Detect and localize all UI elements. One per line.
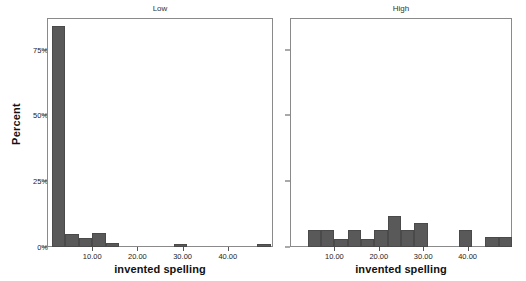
x-tick-mark: [137, 247, 138, 251]
high-panel: High: [290, 18, 512, 247]
x-tick-mark: [334, 247, 335, 251]
high-x-axis-label: invented spelling: [290, 263, 512, 275]
x-tick-label: 20.00: [128, 252, 147, 261]
x-tick-label: 40.00: [218, 252, 237, 261]
y-tick-mark: [285, 181, 290, 182]
histogram-bar: [388, 216, 401, 247]
histogram-bar: [374, 230, 387, 247]
x-tick-label: 10.00: [83, 252, 102, 261]
x-tick-label: 20.00: [369, 252, 388, 261]
y-tick-mark: [42, 181, 47, 182]
x-tick-mark: [183, 247, 184, 251]
y-tick-mark: [285, 247, 290, 248]
y-tick-mark: [285, 115, 290, 116]
histogram-bar: [485, 237, 498, 247]
histogram-bar: [52, 26, 66, 247]
histogram-bar: [459, 230, 472, 247]
histogram-bar: [308, 230, 321, 247]
low-panel-title: Low: [47, 4, 273, 13]
histogram-bar: [348, 230, 361, 247]
histogram-bar: [361, 239, 374, 247]
low-panel-plot-area: [47, 18, 273, 247]
histogram-bar: [321, 230, 334, 247]
x-tick-label: 30.00: [173, 252, 192, 261]
x-tick-mark: [379, 247, 380, 251]
x-tick-label: 30.00: [414, 252, 433, 261]
x-tick-label: 10.00: [325, 252, 344, 261]
histogram-bar: [92, 233, 106, 247]
histogram-bar: [401, 230, 414, 247]
high-panel-plot-area: [290, 18, 512, 247]
y-tick-mark: [42, 115, 47, 116]
y-axis-ticks: 0%25%50%75%: [22, 0, 48, 281]
x-tick-mark: [92, 247, 93, 251]
x-tick-label: 40.00: [458, 252, 477, 261]
x-tick-mark: [423, 247, 424, 251]
x-tick-mark: [468, 247, 469, 251]
y-tick-mark: [42, 247, 47, 248]
histogram-bar: [79, 238, 93, 247]
chart-root: Percent 0%25%50%75% Low invented spellin…: [0, 0, 526, 281]
histogram-bar: [334, 239, 347, 247]
x-tick-mark: [228, 247, 229, 251]
low-panel: Low: [47, 18, 273, 247]
high-panel-x-axis: invented spelling 10.0020.0030.0040.00: [290, 247, 512, 281]
low-panel-x-axis: invented spelling 10.0020.0030.0040.00: [47, 247, 273, 281]
y-axis-label-text: Percent: [10, 103, 22, 145]
y-tick-mark: [285, 49, 290, 50]
high-panel-title: High: [290, 4, 512, 13]
histogram-bar: [65, 234, 79, 247]
y-tick-mark: [42, 49, 47, 50]
histogram-bar: [499, 237, 512, 247]
low-x-axis-label: invented spelling: [47, 263, 273, 275]
histogram-bar: [414, 223, 427, 247]
